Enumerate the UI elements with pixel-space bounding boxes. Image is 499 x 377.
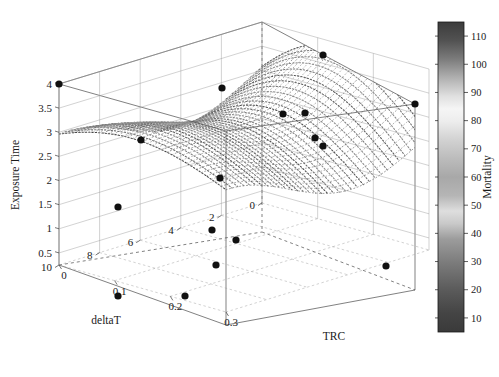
colorbar-title: Mortality bbox=[481, 155, 494, 199]
x-tick-label: 0.3 bbox=[224, 316, 238, 328]
colorbar-tick-label: 20 bbox=[471, 284, 482, 295]
figure-3d-scatter-plot: 0.511.522.533.54 1086420 00.10.20.3 Expo… bbox=[0, 0, 499, 377]
colorbar-tick-label: 70 bbox=[471, 143, 482, 154]
y-tick-label: 10 bbox=[41, 261, 53, 273]
z-tick-label: 2.5 bbox=[38, 150, 52, 162]
colorbar-tick-label: 50 bbox=[471, 200, 482, 211]
x-tick-label: 0 bbox=[61, 269, 67, 281]
colorbar-tick-label: 60 bbox=[471, 172, 482, 183]
axes-box-wireframe bbox=[59, 22, 415, 325]
z-tick-label: 4 bbox=[47, 78, 53, 90]
data-point bbox=[114, 203, 121, 210]
data-point bbox=[301, 109, 308, 116]
data-point bbox=[382, 262, 389, 269]
colorbar-gradient bbox=[438, 22, 464, 332]
y-tick-label: 8 bbox=[87, 249, 93, 261]
y-tick-label: 0 bbox=[250, 199, 256, 211]
data-point bbox=[208, 226, 215, 233]
data-point bbox=[218, 84, 225, 91]
z-tick-label: 1 bbox=[47, 222, 53, 234]
colorbar-tick-label: 10 bbox=[471, 313, 482, 324]
data-point bbox=[114, 292, 121, 299]
z-axis-title: Exposure Time bbox=[9, 140, 22, 210]
box-edge-bottom-left bbox=[59, 265, 226, 325]
data-point bbox=[55, 80, 62, 87]
colorbar-tick-label: 90 bbox=[471, 87, 482, 98]
data-point bbox=[319, 142, 326, 149]
z-tick-label: 2 bbox=[47, 174, 53, 186]
z-tick-label: 3 bbox=[47, 126, 53, 138]
colorbar-tick-label: 100 bbox=[471, 59, 487, 70]
box-edge-top-right-front bbox=[226, 104, 415, 131]
x-axis-title: TRC bbox=[323, 330, 346, 342]
data-point bbox=[279, 110, 286, 117]
colorbar-tick-label: 40 bbox=[471, 228, 482, 239]
z-tick-label: 3.5 bbox=[38, 102, 52, 114]
data-point bbox=[216, 174, 223, 181]
y-axis-tick-labels: 1086420 bbox=[41, 199, 256, 273]
data-point bbox=[137, 136, 144, 143]
colorbar-tick-label: 110 bbox=[471, 31, 486, 42]
colorbar: 102030405060708090100110 Mortality bbox=[435, 22, 494, 332]
x-tick-label: 0.2 bbox=[168, 300, 182, 312]
y-tick-label: 4 bbox=[168, 224, 174, 236]
data-point bbox=[181, 292, 188, 299]
data-point bbox=[311, 134, 318, 141]
data-point bbox=[319, 51, 326, 58]
y-tick-label: 2 bbox=[209, 211, 215, 223]
box-edge-bottom-right bbox=[226, 290, 415, 325]
y-axis-title: deltaT bbox=[91, 314, 120, 326]
x-axis-tick-labels: 00.10.20.3 bbox=[61, 269, 238, 328]
data-point bbox=[411, 100, 418, 107]
data-point bbox=[212, 261, 219, 268]
z-tick-label: 0.5 bbox=[38, 247, 52, 259]
colorbar-tick-label: 30 bbox=[471, 256, 482, 267]
colorbar-tick-label: 80 bbox=[471, 115, 482, 126]
grid-lines bbox=[59, 22, 429, 312]
z-tick-label: 1.5 bbox=[38, 198, 52, 210]
box-edge-bottom-back-right bbox=[262, 232, 415, 290]
data-point bbox=[232, 236, 239, 243]
plot-canvas: 0.511.522.533.54 1086420 00.10.20.3 Expo… bbox=[0, 0, 499, 377]
z-axis-tick-labels: 0.511.522.533.54 bbox=[38, 78, 52, 259]
y-tick-label: 6 bbox=[128, 236, 134, 248]
